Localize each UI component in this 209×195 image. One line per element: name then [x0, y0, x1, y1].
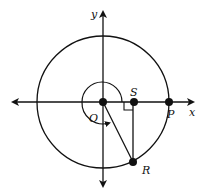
segment-OR	[103, 102, 133, 162]
point-O	[99, 98, 107, 106]
label-x: x	[189, 106, 196, 119]
point-P	[165, 98, 173, 106]
label-R: R	[141, 164, 150, 177]
label-O: O	[89, 112, 98, 125]
point-R	[129, 158, 137, 166]
diagram-canvas: y x O S P R	[0, 0, 209, 195]
point-S	[130, 98, 138, 106]
label-y: y	[90, 8, 98, 21]
label-S: S	[130, 86, 138, 99]
label-P: P	[166, 108, 175, 121]
